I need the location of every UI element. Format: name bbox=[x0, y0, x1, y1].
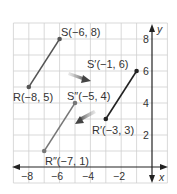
y-axis-down-arrow-icon bbox=[149, 175, 155, 183]
y-axis-label: y bbox=[156, 23, 163, 35]
x-tick-label: −4 bbox=[82, 170, 94, 182]
x-axis-right-arrow-icon bbox=[160, 164, 168, 170]
point-s-prime bbox=[134, 69, 139, 74]
translation-arrow-1-icon bbox=[68, 72, 91, 83]
x-tick-label: −6 bbox=[51, 170, 63, 182]
label-s-prime: S′(−1, 6) bbox=[87, 58, 129, 70]
point-r bbox=[27, 85, 32, 90]
label-s: S(−6, 8) bbox=[61, 26, 100, 38]
point-r-double-prime bbox=[42, 149, 47, 154]
label-r: R(−8, 5) bbox=[13, 91, 53, 103]
y-tick-label: 8 bbox=[143, 33, 149, 45]
x-tick-label: −8 bbox=[21, 170, 33, 182]
y-tick-label: 6 bbox=[143, 65, 149, 77]
y-tick-label: 4 bbox=[143, 97, 149, 109]
point-r-prime bbox=[104, 117, 109, 122]
y-axis bbox=[149, 24, 155, 183]
label-r-double-prime: R″(−7, 1) bbox=[45, 155, 89, 167]
label-s-double-prime: S″(−5, 4) bbox=[67, 90, 110, 102]
x-axis-label: x bbox=[158, 171, 165, 183]
translation-arrow-2-icon bbox=[75, 110, 96, 124]
coordinate-plane: y x −8 −6 −4 −2 8 6 4 2 S(−6, 8) R(−8, 5… bbox=[0, 0, 177, 194]
y-axis-up-arrow-icon bbox=[149, 24, 155, 32]
x-tick-label: −2 bbox=[113, 170, 125, 182]
y-tick-label: 2 bbox=[143, 129, 149, 141]
label-r-prime: R′(−3, 3) bbox=[92, 124, 134, 136]
